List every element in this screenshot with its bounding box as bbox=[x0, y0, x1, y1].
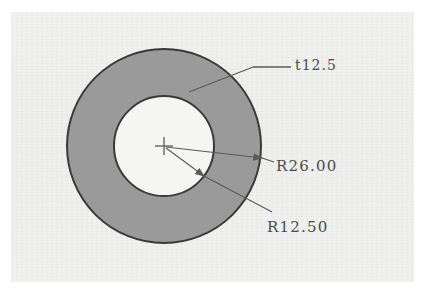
inner-radius-dimension-label: R12.50 bbox=[267, 218, 328, 236]
outer-radius-dimension-label: R26.00 bbox=[276, 157, 337, 175]
thickness-dimension-label: t12.5 bbox=[295, 57, 337, 73]
scanned-drawing-screenshot: t12.5 R26.00 R12.50 bbox=[0, 0, 425, 293]
technical-drawing-canvas bbox=[0, 0, 425, 293]
